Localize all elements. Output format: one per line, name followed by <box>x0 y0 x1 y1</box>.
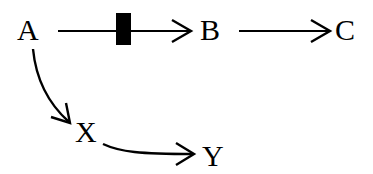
node-x: X <box>75 117 97 147</box>
node-y: Y <box>202 141 224 171</box>
node-c: C <box>335 15 355 45</box>
node-a: A <box>17 15 39 45</box>
edge-x-to-y <box>103 143 194 165</box>
diagram-canvas <box>0 0 373 174</box>
blocker-mark <box>116 13 131 45</box>
edge-a-to-x <box>33 49 70 123</box>
node-b: B <box>200 15 220 45</box>
edge-b-to-c <box>239 20 330 42</box>
